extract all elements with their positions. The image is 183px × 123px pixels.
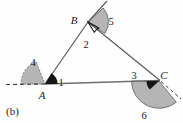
angle-label-4: 4 xyxy=(30,57,36,68)
angle-label-5: 5 xyxy=(108,16,113,27)
vertex-label-B: B xyxy=(71,14,78,26)
angle-1-marker xyxy=(45,73,58,84)
geometry-diagram: A B C 1 2 3 4 5 6 (b) xyxy=(0,0,183,123)
vertex-label-C: C xyxy=(160,69,168,81)
vertex-label-A: A xyxy=(38,89,46,101)
angle-label-1: 1 xyxy=(58,77,63,88)
angle-label-2: 2 xyxy=(83,39,88,50)
geometry-figure: A B C 1 2 3 4 5 6 (b) xyxy=(0,0,183,123)
figure-caption: (b) xyxy=(6,105,19,118)
angle-label-6: 6 xyxy=(141,110,146,121)
angle-label-3: 3 xyxy=(131,70,136,81)
side-BC xyxy=(88,22,160,81)
